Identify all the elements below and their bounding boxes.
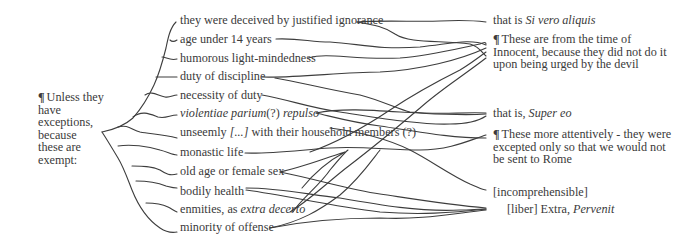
target-sent-to-rome: ¶These more attentively - they were exce… (493, 128, 673, 166)
diagram-canvas: ¶Unless they have exceptions, because th… (0, 0, 682, 246)
item-old-age-female-sex: old age or female sex (180, 165, 284, 178)
root-line-4: exempt: (38, 154, 128, 167)
item-monastic-life: monastic life (180, 146, 243, 159)
target-liber-extra-pervenit: [liber] Extra, Pervenit (507, 203, 614, 216)
item-violentiae-parium: violentiae parium(?) repulso (180, 107, 319, 120)
item-humorous-light-mindedness: humorous light-mindedness (180, 52, 316, 65)
item-minority-of-offense: minority of offense (180, 221, 274, 234)
item-bodily-health: bodily health (180, 185, 244, 198)
item-deceived-ignorance: they were deceived by justified ignoranc… (180, 14, 383, 27)
target-time-of-innocent: ¶These are from the time of Innocent, be… (493, 33, 673, 71)
item-duty-of-discipline: duty of discipline (180, 70, 265, 83)
target-si-vero-aliquis: that is Si vero aliquis (493, 14, 595, 27)
item-unseemly-household: unseemly [...] with their household memb… (180, 126, 416, 139)
target-incomprehensible: [incomprehensible] (493, 186, 588, 199)
root-line-1: ¶Unless they have (38, 91, 128, 116)
item-necessity-of-duty: necessity of duty (180, 89, 263, 102)
item-age-under-14: age under 14 years (180, 33, 272, 46)
item-enmities: enmities, as extra decerto (180, 203, 305, 216)
root-line-3: these are (38, 141, 128, 154)
root-line-2: exceptions, because (38, 116, 128, 141)
root-node: ¶Unless they have exceptions, because th… (38, 91, 128, 166)
target-super-eo: that is, Super eo (493, 107, 572, 120)
